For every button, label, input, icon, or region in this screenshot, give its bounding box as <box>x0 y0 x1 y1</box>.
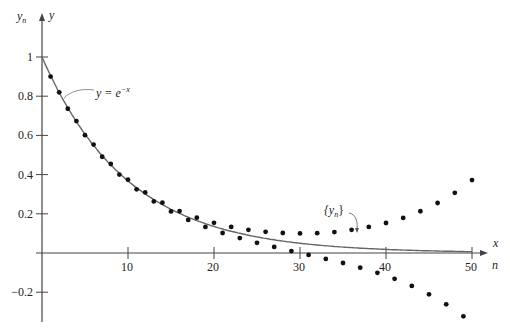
sequence-point <box>444 302 449 307</box>
y-axis-arrow-icon <box>39 13 45 21</box>
sequence-point <box>151 199 156 204</box>
y-tick-label: 1 <box>27 51 33 63</box>
sequence-point <box>255 240 260 245</box>
sequence-point <box>108 162 113 167</box>
plot-area <box>0 0 510 332</box>
sequence-point <box>194 215 199 220</box>
sequence-point <box>298 231 303 236</box>
sequence-point <box>358 265 363 270</box>
sequence-annotation-close: } <box>338 203 344 217</box>
sequence-point <box>57 90 62 95</box>
sequence-point <box>263 229 268 234</box>
sequence-point <box>220 231 225 236</box>
sequence-point <box>435 201 440 206</box>
y-tick-label: −0.2 <box>11 286 33 298</box>
x-tick-label: 50 <box>465 261 477 273</box>
x-axis-arrow-icon <box>480 250 488 256</box>
sequence-point <box>100 154 105 159</box>
sequence-point <box>323 256 328 261</box>
sequence-point <box>134 187 139 192</box>
sequence-point <box>126 177 131 182</box>
x-axis-label-x: x <box>493 237 498 249</box>
sequence-point <box>349 227 354 232</box>
sequence-point <box>74 119 79 124</box>
sequence-point <box>315 231 320 236</box>
sequence-point <box>401 216 406 221</box>
x-tick-label: 20 <box>207 261 219 273</box>
sequence-point <box>280 231 285 236</box>
y-tick-label: 0.2 <box>18 208 33 220</box>
y-tick-label: 0.8 <box>18 90 33 102</box>
sequence-point <box>427 292 432 297</box>
sequence-point <box>186 217 191 222</box>
sequence-point <box>203 225 208 230</box>
sequence-point <box>332 230 337 235</box>
sequence-point <box>341 261 346 266</box>
sequence-point <box>229 225 234 230</box>
curve-annotation: y = e−x <box>96 84 130 99</box>
sequence-point <box>117 172 122 177</box>
y-axis-label-yn: yn <box>17 10 26 27</box>
sequence-point <box>160 200 165 205</box>
sequence-point <box>177 209 182 214</box>
sequence-point <box>246 227 251 232</box>
sequence-point <box>409 284 414 289</box>
sequence-point <box>212 220 217 225</box>
sequence-annotation-text: {y <box>324 203 334 217</box>
sequence-point <box>272 245 277 250</box>
x-tick-label: 30 <box>293 261 305 273</box>
y-tick-label: 0.4 <box>18 169 33 181</box>
curve-annotation-arrow-icon <box>64 89 94 98</box>
sequence-point <box>392 276 397 281</box>
sequence-point <box>48 74 53 79</box>
curve-annotation-text: y = e <box>96 86 121 100</box>
sequence-point <box>169 209 174 214</box>
sequence-point <box>366 225 371 230</box>
y-axis-label-y: y <box>49 9 54 21</box>
sequence-annotation: {yn} <box>324 204 344 221</box>
x-tick-label: 40 <box>379 261 391 273</box>
sequence-point <box>306 253 311 258</box>
sequence-point <box>470 178 475 183</box>
sequence-point <box>384 221 389 226</box>
x-tick-label: 10 <box>121 261 133 273</box>
sequence-point <box>91 142 96 147</box>
sequence-annotation-arrowhead-icon <box>355 228 359 233</box>
x-axis-label-n: n <box>492 259 498 271</box>
sequence-point <box>65 106 70 111</box>
sequence-point <box>83 133 88 138</box>
sequence-point <box>237 236 242 241</box>
sequence-point <box>289 249 294 254</box>
y-tick-label: 0.6 <box>18 129 33 141</box>
curve-annotation-exponent: −x <box>121 85 130 94</box>
sequence-point <box>452 190 457 195</box>
sequence-point <box>418 209 423 214</box>
sequence-point <box>461 314 466 319</box>
y-axis-label-yn-sub: n <box>22 16 26 25</box>
sequence-point <box>143 190 148 195</box>
